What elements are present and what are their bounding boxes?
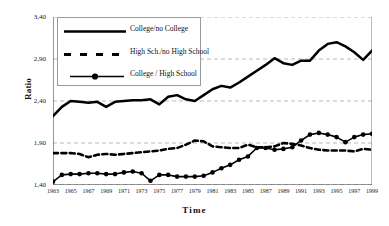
y-axis-title: Ratio (23, 59, 33, 119)
legend-sample-solid-line (62, 20, 128, 43)
data-point (352, 135, 357, 140)
data-point (228, 163, 233, 168)
legend-sample-dashed-line (62, 43, 128, 66)
data-point (113, 172, 118, 177)
data-point (219, 166, 224, 171)
data-point (175, 174, 180, 179)
data-point (281, 147, 286, 152)
data-point (370, 131, 372, 136)
data-point (130, 169, 135, 174)
data-point (308, 132, 313, 137)
data-point (290, 145, 295, 150)
y-tick-label: 2,90 (16, 55, 46, 63)
legend-sample-marker-line (62, 65, 128, 88)
series-2 (53, 131, 372, 184)
data-point (237, 158, 242, 163)
legend-item-1: High Sch./no High School (58, 43, 202, 66)
data-point (201, 173, 206, 178)
chart-figure: Ratio Time 1,401,902,402,903,40 19631965… (0, 0, 389, 226)
data-point (77, 172, 82, 177)
legend-item-0: College/no College (58, 20, 202, 43)
data-point (361, 132, 366, 137)
data-point (325, 132, 330, 137)
data-point (60, 173, 65, 178)
legend-label-1: High Sch./no High School (130, 47, 209, 56)
x-tick-label: 1999 (359, 188, 385, 194)
data-point (210, 170, 215, 175)
data-point (122, 170, 127, 175)
data-point (343, 140, 348, 145)
y-tick-label: 2,40 (16, 97, 46, 105)
data-point (139, 171, 144, 176)
legend-label-0: College/no College (130, 24, 188, 33)
chart-legend: College/no College High Sch./no High Sch… (57, 17, 201, 86)
data-point (68, 172, 73, 177)
x-axis-title: Time (0, 205, 389, 215)
legend-label-2: College / High School (130, 69, 197, 78)
data-point (334, 135, 339, 140)
data-point (246, 154, 251, 159)
data-point (255, 146, 260, 151)
data-point (86, 171, 91, 176)
series-1 (53, 140, 372, 157)
data-point (317, 131, 322, 136)
data-point (157, 173, 162, 178)
data-point (192, 174, 197, 179)
data-point (272, 147, 277, 152)
y-tick-label: 3,40 (16, 13, 46, 21)
y-tick-label: 1,90 (16, 139, 46, 147)
legend-item-2: College / High School (58, 65, 202, 88)
data-point (95, 171, 100, 176)
data-point (166, 173, 171, 178)
data-point (104, 172, 109, 177)
data-point (184, 174, 189, 179)
data-point (263, 146, 268, 151)
data-point (299, 138, 304, 143)
data-point (148, 179, 153, 184)
